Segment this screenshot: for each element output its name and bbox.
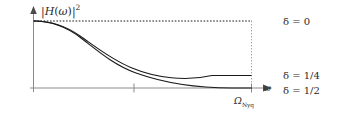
x-axis-label: ω [264,84,271,93]
nyquist-tick-label: ΩNyq [234,96,254,109]
legend-item-delta-0: δ = 0 [283,16,310,27]
nyquist-tick-label-subscript: Nyq [242,102,254,108]
y-axis-label-omega: ω [59,5,68,18]
figure-container: |H(ω)|2 ω ΩNyq δ = 0 δ = 1/4 δ = 1/2 [0,0,338,120]
y-axis-label-func: H [45,5,55,18]
legend-item-delta-1-2: δ = 1/2 [283,85,320,96]
y-axis-label-exponent: 2 [76,3,81,12]
y-axis-label: |H(ω)|2 [41,4,80,17]
nyquist-tick-label-symbol: Ω [234,95,242,106]
legend-item-delta-1-4: δ = 1/4 [283,70,320,81]
series-delta-1-4-curve [34,21,251,78]
series-delta-1-2-curve [34,21,252,88]
y-axis-arrowhead [30,6,37,14]
